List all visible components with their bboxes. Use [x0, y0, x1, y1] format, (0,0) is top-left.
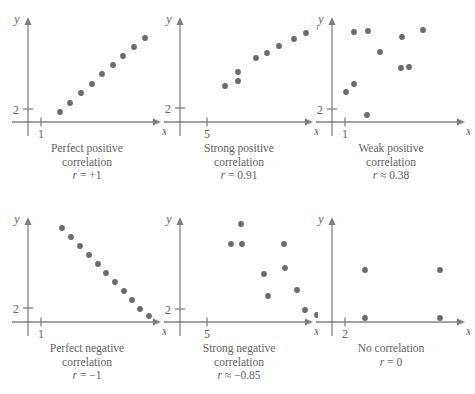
panel-perfect-negative: xy12Perfect negativecorrelationr = −1: [8, 206, 166, 394]
caption-line-2: correlation: [312, 156, 470, 170]
data-points: [343, 27, 426, 118]
panel-strong-positive: xy52Strong positivecorrelationr = 0.91: [160, 6, 318, 203]
data-point: [67, 100, 73, 106]
data-point: [146, 313, 152, 319]
caption-perfect-negative: Perfect negativecorrelationr = −1: [8, 342, 166, 383]
x-tick-label: 5: [204, 327, 210, 341]
data-point: [303, 30, 309, 36]
data-point: [121, 288, 127, 294]
caption-line-2: correlation: [8, 156, 166, 170]
data-points: [362, 267, 443, 321]
y-axis-label: y: [13, 12, 20, 26]
caption-line-1: Strong positive: [160, 142, 318, 156]
scatterplot-perfect-positive: xy12: [8, 6, 166, 146]
panel-perfect-positive: xy12Perfect positivecorrelationr = +1: [8, 6, 166, 203]
data-point: [99, 71, 105, 77]
caption-strong-positive: Strong positivecorrelationr = 0.91: [160, 142, 318, 183]
y-axis-arrowhead: [176, 17, 183, 25]
r-value-text: = +1: [77, 169, 101, 181]
correlation-coefficient: r = +1: [8, 169, 166, 183]
data-points: [228, 221, 318, 318]
caption-line-2: correlation: [8, 356, 166, 370]
x-tick-label: 1: [38, 127, 44, 141]
y-axis-label: y: [13, 212, 20, 226]
data-point: [437, 315, 443, 321]
r-value-text: = 0.91: [225, 169, 257, 181]
data-point: [103, 270, 109, 276]
data-point: [228, 241, 234, 247]
r-value-text: ≈ −0.85: [222, 369, 261, 381]
data-point: [222, 83, 228, 89]
data-point: [57, 109, 63, 115]
data-point: [343, 89, 349, 95]
data-point: [302, 307, 308, 313]
data-point: [238, 221, 244, 227]
caption-strong-negative: Strong negativecorrelationr ≈ −0.85: [160, 342, 318, 383]
data-point: [294, 287, 300, 293]
correlation-coefficient: r = −1: [8, 369, 166, 383]
data-point: [291, 36, 297, 42]
caption-line-1: Strong negative: [160, 342, 318, 356]
data-point: [377, 49, 383, 55]
scatterplot-no-correlation: xy2: [312, 206, 470, 346]
data-point: [120, 53, 126, 59]
data-point: [95, 261, 101, 267]
y-tick-label: 2: [13, 302, 19, 316]
r-value-text: = 0: [384, 356, 402, 368]
data-point: [235, 78, 241, 84]
data-point: [398, 65, 404, 71]
y-axis-arrowhead: [328, 217, 335, 225]
data-point: [77, 243, 83, 249]
correlation-coefficient: r ≈ −0.85: [160, 369, 318, 383]
data-point: [406, 64, 412, 70]
caption-line-1: Weak positive: [312, 142, 470, 156]
data-points: [57, 35, 148, 115]
scatterplot-weak-positive: xy12: [312, 6, 470, 146]
data-point: [239, 241, 245, 247]
caption-line-2: correlation: [160, 156, 318, 170]
data-point: [281, 241, 287, 247]
y-axis-label: y: [165, 212, 172, 226]
y-axis-arrowhead: [24, 17, 31, 25]
data-point: [142, 35, 148, 41]
y-axis-arrowhead: [328, 17, 335, 25]
data-point: [437, 267, 443, 273]
scatterplot-strong-negative: xy52: [160, 206, 318, 346]
data-point: [86, 252, 92, 258]
panel-no-correlation: xy2No correlationr = 0: [312, 206, 470, 394]
data-point: [253, 55, 259, 61]
correlation-coefficient: r = 0.91: [160, 169, 318, 183]
data-point: [399, 34, 405, 40]
data-point: [282, 265, 288, 271]
panel-strong-negative: xy52Strong negativecorrelationr ≈ −0.85: [160, 206, 318, 394]
data-point: [112, 279, 118, 285]
correlation-coefficient: r = 0: [312, 356, 470, 370]
r-value-text: ≈ 0.38: [377, 169, 409, 181]
data-point: [365, 28, 371, 34]
data-point: [265, 293, 271, 299]
panel-weak-positive: xy12Weak positivecorrelationr ≈ 0.38: [312, 6, 470, 203]
data-point: [68, 234, 74, 240]
x-axis-arrowhead: [457, 318, 465, 325]
caption-line-1: Perfect positive: [8, 142, 166, 156]
y-tick-label: 2: [317, 103, 323, 117]
data-points: [222, 25, 318, 89]
caption-weak-positive: Weak positivecorrelationr ≈ 0.38: [312, 142, 470, 183]
x-tick-label: 5: [204, 127, 210, 141]
data-point: [110, 62, 116, 68]
y-axis-label: y: [317, 12, 324, 26]
data-point: [129, 297, 135, 303]
data-point: [137, 306, 143, 312]
correlation-figure: xy12Perfect positivecorrelationr = +1xy5…: [0, 0, 475, 394]
y-axis-label: y: [165, 12, 172, 26]
x-axis-label: x: [465, 124, 470, 138]
caption-line-2: correlation: [160, 356, 318, 370]
y-tick-label: 2: [165, 303, 171, 317]
r-value-text: = −1: [77, 369, 101, 381]
data-point: [276, 43, 282, 49]
data-point: [362, 315, 368, 321]
x-axis-arrowhead: [457, 118, 465, 125]
y-axis-arrowhead: [176, 217, 183, 225]
caption-line-1: No correlation: [312, 342, 470, 356]
x-tick-label: 1: [342, 127, 348, 141]
